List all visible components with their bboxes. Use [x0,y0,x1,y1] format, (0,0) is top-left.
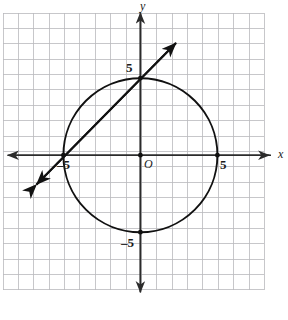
origin-label: O [144,158,153,170]
point-0-neg5 [138,230,143,235]
x-tick-label-5: 5 [220,158,227,171]
y-tick-label-5: 5 [126,61,133,74]
x-axis-label: x [278,148,283,160]
y-axis-label: y [140,0,145,12]
x-tick-label-neg5: –5 [57,158,70,171]
axis-lines [8,13,272,293]
point-origin [138,153,143,158]
graph-figure: 5 –5 –5 5 O x y [0,0,288,320]
point-0-5 [138,76,143,81]
y-tick-label-neg5: –5 [121,236,134,249]
